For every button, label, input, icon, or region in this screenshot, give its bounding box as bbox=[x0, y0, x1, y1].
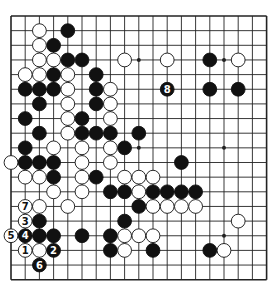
black-stone: 2 bbox=[47, 244, 61, 258]
black-stone: 4 bbox=[18, 229, 32, 243]
black-stone bbox=[33, 82, 47, 96]
white-stone bbox=[160, 200, 174, 214]
white-stone bbox=[4, 156, 18, 170]
white-stone bbox=[33, 244, 47, 258]
white-stone bbox=[47, 141, 61, 155]
move-number: 6 bbox=[36, 260, 43, 271]
white-stone bbox=[132, 229, 146, 243]
white-stone bbox=[146, 170, 160, 184]
black-stone bbox=[189, 185, 203, 199]
black-stone bbox=[89, 126, 103, 140]
white-stone bbox=[61, 112, 75, 126]
white-stone bbox=[61, 68, 75, 82]
white-stone bbox=[132, 185, 146, 199]
white-stone: 3 bbox=[18, 214, 32, 228]
white-stone bbox=[146, 229, 160, 243]
black-stone bbox=[175, 156, 189, 170]
black-stone: 6 bbox=[33, 258, 47, 272]
white-stone bbox=[33, 170, 47, 184]
black-stone bbox=[175, 185, 189, 199]
white-stone bbox=[75, 170, 89, 184]
black-stone bbox=[47, 229, 61, 243]
black-stone bbox=[146, 244, 160, 258]
black-stone bbox=[203, 82, 217, 96]
black-stone bbox=[33, 229, 47, 243]
black-stone bbox=[33, 156, 47, 170]
black-stone bbox=[75, 229, 89, 243]
star-point bbox=[222, 58, 226, 62]
black-stone bbox=[47, 156, 61, 170]
black-stone bbox=[231, 82, 245, 96]
move-number: 8 bbox=[164, 84, 171, 95]
white-stone bbox=[33, 24, 47, 38]
white-stone bbox=[47, 185, 61, 199]
go-board: 12345678 bbox=[0, 0, 276, 291]
move-number: 1 bbox=[22, 245, 29, 256]
white-stone bbox=[104, 82, 118, 96]
white-stone bbox=[75, 185, 89, 199]
black-stone bbox=[75, 126, 89, 140]
black-stone bbox=[118, 185, 132, 199]
black-stone bbox=[47, 38, 61, 52]
black-stone bbox=[104, 244, 118, 258]
black-stone bbox=[132, 126, 146, 140]
black-stone: 8 bbox=[160, 82, 174, 96]
star-point bbox=[222, 146, 226, 150]
white-stone bbox=[47, 53, 61, 67]
black-stone bbox=[118, 214, 132, 228]
white-stone bbox=[18, 68, 32, 82]
black-stone bbox=[18, 156, 32, 170]
white-stone: 7 bbox=[18, 200, 32, 214]
white-stone: 5 bbox=[4, 229, 18, 243]
black-stone bbox=[33, 214, 47, 228]
white-stone bbox=[33, 38, 47, 52]
black-stone bbox=[33, 97, 47, 111]
white-stone bbox=[104, 141, 118, 155]
white-stone bbox=[231, 53, 245, 67]
white-stone bbox=[146, 200, 160, 214]
black-stone bbox=[61, 53, 75, 67]
white-stone bbox=[175, 200, 189, 214]
white-stone bbox=[61, 97, 75, 111]
white-stone bbox=[104, 112, 118, 126]
black-stone bbox=[118, 141, 132, 155]
move-number: 2 bbox=[50, 245, 57, 256]
white-stone bbox=[33, 68, 47, 82]
black-stone bbox=[132, 200, 146, 214]
white-stone bbox=[118, 244, 132, 258]
star-point bbox=[137, 146, 141, 150]
white-stone bbox=[61, 126, 75, 140]
white-stone: 1 bbox=[18, 244, 32, 258]
white-stone bbox=[104, 156, 118, 170]
white-stone bbox=[18, 170, 32, 184]
black-stone bbox=[47, 170, 61, 184]
white-stone bbox=[75, 141, 89, 155]
black-stone bbox=[89, 97, 103, 111]
white-stone bbox=[160, 53, 174, 67]
black-stone bbox=[75, 112, 89, 126]
black-stone bbox=[104, 229, 118, 243]
star-point bbox=[222, 234, 226, 238]
white-stone bbox=[33, 53, 47, 67]
move-number: 5 bbox=[8, 230, 15, 241]
move-number: 4 bbox=[22, 230, 29, 241]
black-stone bbox=[104, 185, 118, 199]
black-stone bbox=[75, 53, 89, 67]
white-stone bbox=[33, 200, 47, 214]
black-stone bbox=[146, 185, 160, 199]
black-stone bbox=[89, 68, 103, 82]
move-number: 7 bbox=[22, 201, 29, 212]
white-stone bbox=[104, 97, 118, 111]
black-stone bbox=[18, 141, 32, 155]
white-stone bbox=[189, 200, 203, 214]
black-stone bbox=[33, 126, 47, 140]
white-stone bbox=[61, 200, 75, 214]
white-stone bbox=[118, 229, 132, 243]
black-stone bbox=[47, 68, 61, 82]
black-stone bbox=[47, 82, 61, 96]
black-stone bbox=[89, 82, 103, 96]
black-stone bbox=[18, 82, 32, 96]
white-stone bbox=[75, 156, 89, 170]
black-stone bbox=[61, 24, 75, 38]
black-stone bbox=[203, 244, 217, 258]
